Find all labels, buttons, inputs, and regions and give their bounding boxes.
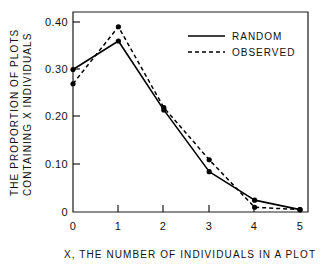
x-tick-label-1: 1 [115,220,122,232]
series-line-random [73,41,300,210]
x-tick-label-0: 0 [70,220,77,232]
data-point [252,198,257,203]
x-tick-label-2: 2 [160,220,167,232]
data-point [70,67,75,72]
y-axis-title-line2: CONTAINING X INDIVIDUALS [22,33,33,196]
data-point [116,38,121,43]
y-axis-ticks [73,22,80,164]
y-tick-label-000: 0 [61,206,68,218]
x-axis-title: X, THE NUMBER OF INDIVIDUALS IN A PLOT [64,249,316,260]
x-tick-label-5: 5 [297,220,304,232]
data-point [116,24,121,29]
figure-canvas: 0.40 0.30 0.20 0.10 0 0 1 2 3 4 5 THE PR… [0,0,325,270]
legend-label-random: RANDOM [232,31,282,42]
data-point [161,105,166,110]
plot-frame [73,12,308,212]
y-tick-label-030: 0.30 [45,63,68,75]
x-axis-ticks [118,205,254,212]
data-point [297,207,302,212]
data-point [70,81,75,86]
legend: RANDOM OBSERVED [188,31,295,58]
chart-page: 0.40 0.30 0.20 0.10 0 0 1 2 3 4 5 THE PR… [0,0,325,270]
data-point [252,205,257,210]
y-axis-title-line1: THE PROPORTION OF PLOTS [9,29,20,196]
x-tick-label-4: 4 [251,220,258,232]
y-tick-label-040: 0.40 [45,16,68,28]
x-tick-label-3: 3 [206,220,213,232]
y-tick-label-010: 0.10 [45,158,68,170]
y-tick-label-020: 0.20 [45,110,68,122]
legend-label-observed: OBSERVED [232,47,295,58]
data-point [207,157,212,162]
series-random [70,38,302,212]
data-point [207,169,212,174]
